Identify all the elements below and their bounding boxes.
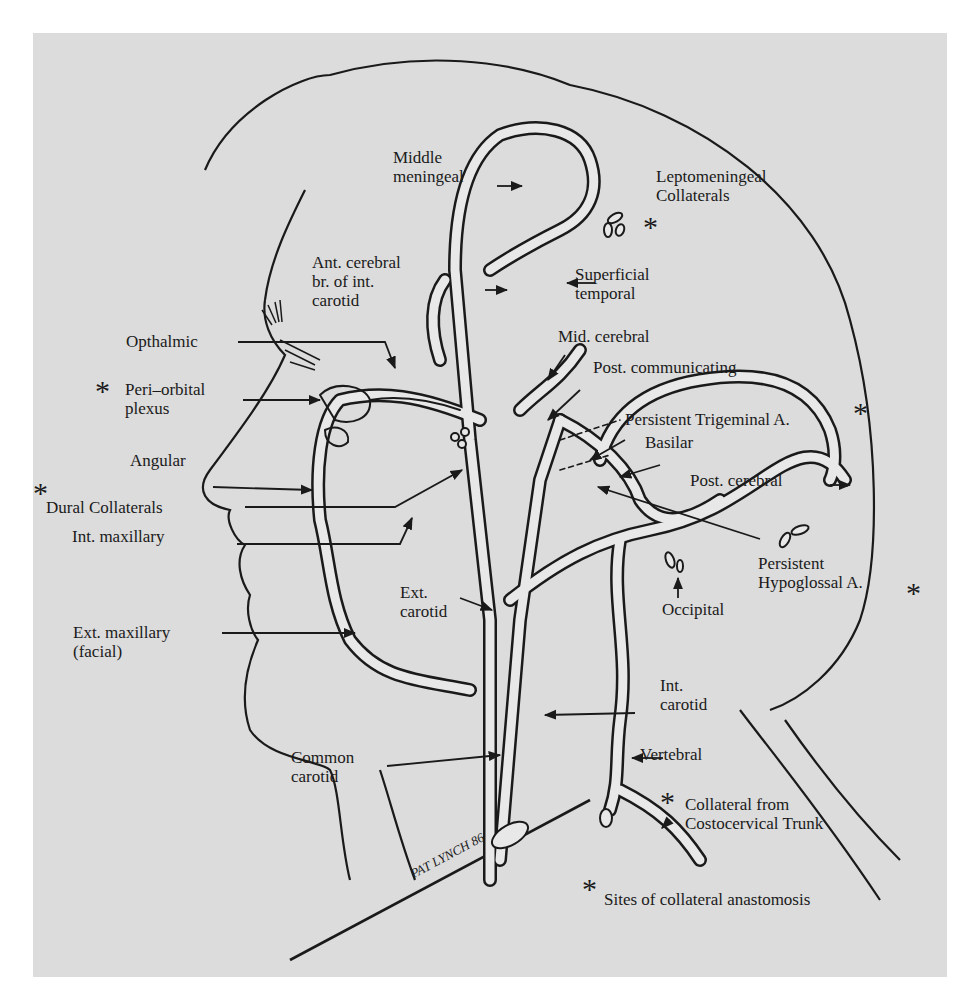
label-line: Ext.	[400, 583, 447, 602]
label-line: carotid	[312, 291, 401, 310]
label-angular: Angular	[130, 451, 186, 470]
label-line: temporal	[575, 284, 650, 303]
label-opthalmic: Opthalmic	[126, 332, 198, 351]
label-line: plexus	[125, 399, 205, 418]
label-line: Common	[291, 748, 354, 767]
label-line: Ant. cerebral	[312, 253, 401, 272]
label-basilar: Basilar	[645, 433, 693, 452]
asterisk-icon: *	[853, 398, 868, 428]
label-line: Persistent	[758, 554, 863, 573]
label-int-maxillary: Int. maxillary	[72, 527, 165, 546]
label-line: carotid	[291, 767, 354, 786]
label-line: Peri–orbital	[125, 380, 205, 399]
asterisk-icon: *	[95, 376, 110, 406]
label-peri-orbital-plexus: Peri–orbital plexus	[125, 380, 205, 418]
asterisk-icon: *	[906, 578, 921, 608]
label-post-communicating: Post. communicating	[593, 358, 737, 377]
label-line: Int.	[660, 676, 707, 695]
label-line: Collateral from	[685, 795, 823, 814]
arteries	[318, 128, 845, 880]
label-persistent-hypoglossal: Persistent Hypoglossal A.	[758, 554, 863, 592]
label-ext-maxillary: Ext. maxillary (facial)	[73, 623, 170, 661]
label-line: Costocervical Trunk	[685, 814, 823, 833]
label-line: Collaterals	[656, 186, 766, 205]
label-line: (facial)	[73, 642, 170, 661]
label-ext-carotid: Ext. carotid	[400, 583, 447, 621]
label-line: carotid	[660, 695, 707, 714]
label-line: meningeal	[393, 167, 464, 186]
label-persistent-trigeminal: Persistent Trigeminal A.	[625, 410, 790, 429]
label-dural-collaterals: Dural Collaterals	[46, 498, 163, 517]
label-line: br. of int.	[312, 272, 401, 291]
label-middle-meningeal: Middle meningeal	[393, 148, 464, 186]
label-line: Hypoglossal A.	[758, 573, 863, 592]
asterisk-icon: *	[643, 212, 658, 242]
label-mid-cerebral: Mid. cerebral	[558, 327, 650, 346]
label-superficial-temporal: Superficial temporal	[575, 265, 650, 303]
label-leptomeningeal-collaterals: Leptomeningeal Collaterals	[656, 167, 766, 205]
legend-text: Sites of collateral anastomosis	[604, 890, 810, 909]
label-line: Ext. maxillary	[73, 623, 170, 642]
legend-asterisk-icon: *	[582, 874, 597, 904]
label-line: Superficial	[575, 265, 650, 284]
label-vertebral: Vertebral	[640, 745, 702, 764]
label-line: carotid	[400, 602, 447, 621]
label-common-carotid: Common carotid	[291, 748, 354, 786]
label-costocervical-collateral: Collateral from Costocervical Trunk	[685, 795, 823, 833]
label-occipital: Occipital	[662, 600, 724, 619]
asterisk-icon: *	[660, 787, 675, 817]
label-line: Middle	[393, 148, 464, 167]
label-post-cerebral: Post. cerebral	[690, 471, 783, 490]
label-ant-cerebral: Ant. cerebral br. of int. carotid	[312, 253, 401, 310]
label-int-carotid: Int. carotid	[660, 676, 707, 714]
label-line: Leptomeningeal	[656, 167, 766, 186]
